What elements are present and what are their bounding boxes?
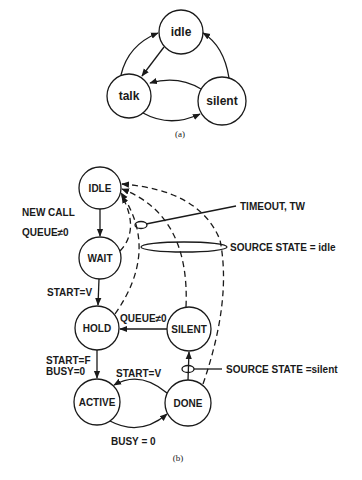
label-start-f: START=F xyxy=(46,355,91,366)
dashed-timeouts xyxy=(115,184,224,384)
label-timeout: TIMEOUT, TW xyxy=(240,201,306,212)
label-source-idle: SOURCE STATE = idle xyxy=(230,242,336,253)
arrow-idle-to-talk xyxy=(142,47,164,76)
arrow-silent-to-talk xyxy=(150,80,201,89)
arrow-active-to-done xyxy=(110,414,167,428)
label-start-v-2: START=V xyxy=(116,368,161,379)
timeout-pointer-line xyxy=(146,206,236,224)
state-silent-label: SILENT xyxy=(171,324,207,335)
label-busy0-left: BUSY=0 xyxy=(46,366,86,377)
arrow-talk-to-silent xyxy=(143,113,200,121)
caption-b: (b) xyxy=(173,453,184,463)
state-silent-a-label: silent xyxy=(206,94,237,108)
state-talk-a-label: talk xyxy=(119,89,140,103)
label-busy0-bottom: BUSY = 0 xyxy=(111,436,156,447)
state-idle-label: IDLE xyxy=(89,183,112,194)
source-idle-ellipse xyxy=(141,242,227,252)
label-queue-ne0: QUEUE≠0 xyxy=(22,227,69,238)
figure-b xyxy=(74,167,236,428)
label-source-silent: SOURCE STATE =silent xyxy=(226,364,338,375)
state-hold-label: HOLD xyxy=(83,323,111,334)
arrow-silent-to-idle xyxy=(203,33,229,78)
state-idle-a-label: idle xyxy=(171,25,192,39)
label-start-v-1: START=V xyxy=(47,287,92,298)
label-queue-ne0-mid: QUEUE≠0 xyxy=(120,313,167,324)
dashed-done-to-idle xyxy=(122,184,224,384)
arrow-talk-to-idle xyxy=(121,33,158,75)
state-diagram: idle talk silent (a) IDLE WAIT xyxy=(0,0,362,480)
state-active-label: ACTIVE xyxy=(79,397,116,408)
arrow-wait-to-hold xyxy=(98,279,99,305)
label-new-call: NEW CALL xyxy=(22,207,75,218)
dashed-wait-to-idle xyxy=(120,196,131,251)
state-wait-label: WAIT xyxy=(88,253,113,264)
arrow-done-to-active xyxy=(114,379,167,393)
state-done-label: DONE xyxy=(174,398,203,409)
dashed-silent-to-idle xyxy=(122,189,186,307)
caption-a: (a) xyxy=(175,129,185,139)
